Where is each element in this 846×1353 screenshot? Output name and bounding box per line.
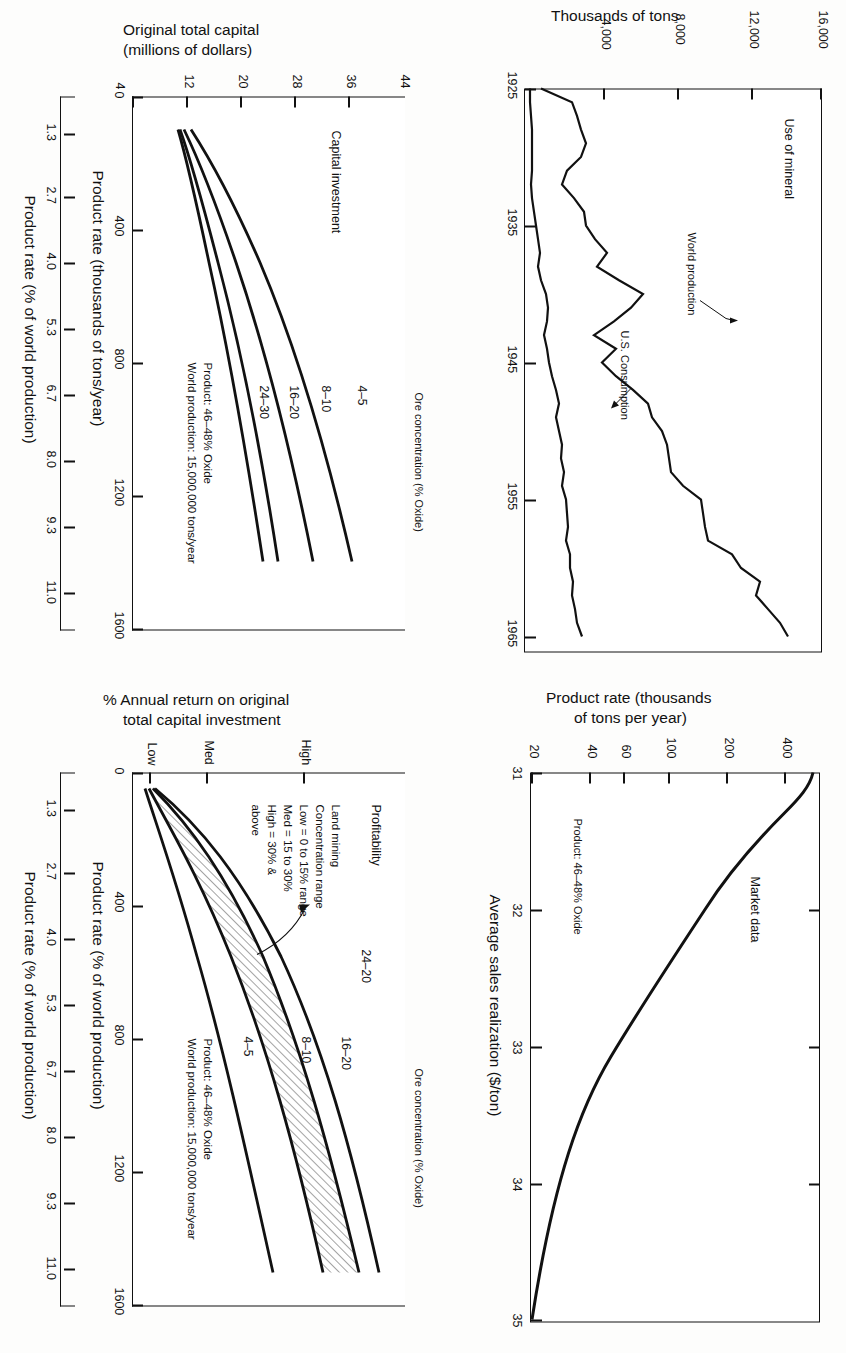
ylabel-cap-0: 4: [113, 82, 127, 89]
tick-y-400: [784, 772, 786, 783]
tick-prof-x-1200: [132, 1171, 143, 1173]
tick-x-1925: [525, 88, 536, 90]
xlabel-prof-4: 1600: [112, 1287, 126, 1315]
curve-label-cap-16-20: 16–20: [287, 385, 301, 418]
x2label-cap-6: 9.3: [44, 516, 58, 533]
tick-x-1935: [525, 225, 536, 227]
tick-x-31: [531, 772, 542, 774]
x2label-prof-7: 11.0: [44, 1256, 58, 1279]
tick-y-16000: [820, 88, 822, 99]
xlabel-prof-3: 1200: [112, 1154, 126, 1182]
curve-label-prof-24-20: 24–20: [359, 949, 373, 982]
curve-label-cap-8-10: 8–10: [319, 385, 333, 412]
tick-prof-x-1600: [132, 1304, 143, 1306]
ylabel-use-2: 12,000: [747, 10, 761, 48]
tick-cap-x2-3: [64, 262, 75, 264]
profitability-corner-label: Profitability: [369, 804, 383, 865]
profitability-note-0: Product: 46–48% Oxide: [199, 1038, 215, 1159]
profitability-legend-5: above: [247, 804, 263, 835]
xlabel-use-0: 1925: [505, 71, 519, 99]
figure-rotation-wrapper: 4,000 8,000 12,000 16,000 1925 1935 1945…: [0, 0, 846, 1353]
tick-cap-x2-4: [64, 328, 75, 330]
x2label-cap-1: 2.7: [44, 186, 58, 203]
capital-investment-secondary-axis: [60, 96, 75, 630]
xlabel-market-1: 32: [510, 903, 524, 917]
xlabel-cap-4: 1600: [112, 611, 126, 639]
ylabel-use-3: 16,000: [816, 10, 830, 48]
tick-prof-x2-6: [64, 1136, 75, 1138]
capital-investment-corner-label: Capital investment: [329, 130, 343, 233]
tick-x-top-34: [809, 1183, 820, 1185]
profitability-y-axis-title-line1: % Annual return on original: [103, 690, 289, 708]
tick-prof-x2-8: [64, 1268, 75, 1270]
tick-x-32: [531, 909, 542, 911]
tick-x-35: [531, 1319, 542, 1321]
capital-investment-top-label: Ore concentration (% Oxide): [413, 392, 425, 531]
tick-cap-y-12: [186, 96, 188, 107]
tick-x-1945: [525, 362, 536, 364]
tick-cap-x2-8: [64, 592, 75, 594]
tick-y-60: [623, 772, 625, 783]
xlabel-use-4: 1965: [505, 619, 519, 647]
xlabel-cap-0: 0: [112, 91, 126, 98]
xlabel-market-0: 31: [510, 766, 524, 780]
tick-prof-x2-7: [64, 1202, 75, 1204]
series-label-us-consumption: U.S. Consumption: [619, 330, 631, 419]
profitability-x-axis-title: Product rate (% of world production): [89, 861, 107, 1109]
capital-investment-y-axis-title-line1: Original total capital: [123, 20, 259, 38]
tick-y-40: [589, 772, 591, 783]
tick-x-33: [531, 1046, 542, 1048]
tick-x-34: [531, 1183, 542, 1185]
curve-label-prof-16-20: 16–20: [339, 1036, 353, 1069]
tick-prof-x2-5: [64, 1070, 75, 1072]
x2label-cap-0: 1.3: [44, 123, 58, 140]
curve-label-prof-4-5: 4–5: [241, 1036, 255, 1056]
xlabel-prof-0: 0: [112, 767, 126, 774]
tick-x-top-32: [809, 909, 820, 911]
capital-investment-x2-axis-title: Product rate (% of world production): [21, 195, 39, 443]
xlabel-prof-1: 400: [112, 891, 126, 912]
xlabel-cap-3: 1200: [112, 478, 126, 506]
profitability-top-label: Ore concentration (% Oxide): [413, 1068, 425, 1207]
tick-y-100: [668, 772, 670, 783]
profitability-legend-3: Med = 15 to 30%: [279, 804, 295, 891]
tick-x-top-33: [809, 1046, 820, 1048]
tick-prof-y-high: [303, 772, 305, 783]
tick-prof-y-med: [206, 772, 208, 783]
ylabel-market-2: 60: [619, 744, 633, 758]
xlabel-use-2: 1945: [505, 345, 519, 373]
capital-investment-x-axis-title: Product rate (thousands of tons/year): [89, 170, 107, 426]
tick-prof-x2-3: [64, 938, 75, 940]
panel-capital-investment: Ore concentration (% Oxide) 4 12 20 28 3…: [0, 0, 423, 676]
use-of-mineral-plot-frame: [524, 88, 822, 652]
profitability-y-axis-title-line2: total capital investment: [123, 710, 281, 728]
ylabel-prof-1: Med: [202, 740, 216, 764]
xlabel-cap-2: 800: [112, 348, 126, 369]
ylabel-prof-0: Low: [145, 742, 159, 765]
tick-cap-y-20: [240, 96, 242, 107]
tick-cap-y-28: [294, 96, 296, 107]
tick-prof-x-0: [132, 772, 143, 774]
profitability-legend-4: High = 30% &: [263, 804, 279, 875]
ylabel-cap-1: 12: [182, 74, 196, 88]
ylabel-prof-2: High: [299, 739, 313, 765]
x2label-prof-3: 5.3: [44, 994, 58, 1011]
curve-label-cap-4-5: 4–5: [355, 385, 369, 405]
tick-cap-x-1200: [132, 495, 143, 497]
x2label-cap-3: 5.3: [44, 318, 58, 335]
ylabel-cap-2: 20: [236, 74, 250, 88]
ylabel-cap-3: 28: [290, 74, 304, 88]
panel-market-data: 20 40 60 100 200 400 31 32 33 34 35 Aver…: [423, 676, 846, 1353]
tick-prof-x2-4: [64, 1004, 75, 1006]
series-label-world-production: World production: [686, 232, 698, 315]
ylabel-market-0: 20: [527, 744, 541, 758]
capital-investment-y-axis-title-line2: (millions of dollars): [123, 40, 252, 58]
ylabel-market-5: 400: [780, 737, 794, 758]
x2label-prof-6: 9.3: [44, 1192, 58, 1209]
x2label-prof-0: 1.3: [44, 799, 58, 816]
profitability-legend-1: Concentration range: [311, 804, 327, 908]
tick-prof-y-low: [149, 772, 151, 783]
market-data-product-note: Product: 46–48% Oxide: [572, 818, 584, 934]
curve-label-prof-8-10: 8–10: [299, 1036, 313, 1063]
use-of-mineral-corner-label: Use of mineral: [782, 118, 796, 199]
